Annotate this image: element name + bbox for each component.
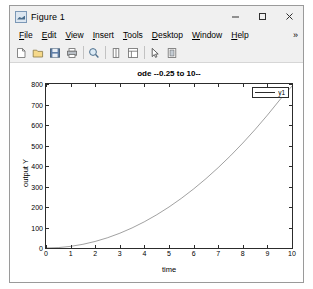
maximize-button[interactable] (249, 6, 276, 27)
menu-item-view[interactable]: View (61, 29, 88, 42)
screenshot-root: Figure 1 File Edit View Insert Tools Des… (0, 0, 313, 289)
figure-window: Figure 1 File Edit View Insert Tools Des… (9, 5, 304, 283)
x-tick-label: 4 (142, 250, 146, 257)
x-tick-label: 10 (288, 250, 296, 257)
save-figure-icon[interactable] (47, 45, 63, 60)
menu-item-desktop[interactable]: Desktop (148, 29, 188, 42)
x-tick-mark (292, 84, 293, 87)
menu-item-file[interactable]: File (15, 29, 38, 42)
y-tick-label: 400 (31, 163, 43, 170)
y-tick-label: 100 (31, 224, 43, 231)
y-tick-label: 300 (31, 183, 43, 190)
matlab-figure-icon (15, 11, 27, 23)
data-cursor-icon[interactable] (108, 45, 124, 60)
close-button[interactable] (276, 6, 303, 27)
menu-item-help[interactable]: Help (227, 29, 253, 42)
x-tick-label: 3 (118, 250, 122, 257)
window-title: Figure 1 (31, 12, 65, 22)
legend-swatch-y1 (255, 92, 275, 93)
x-tick-label: 9 (265, 250, 269, 257)
toolbar-separator (83, 46, 84, 59)
y-axis-label: output Y (21, 159, 30, 187)
open-file-icon[interactable] (30, 45, 46, 60)
new-figure-icon[interactable] (13, 45, 29, 60)
y-tick-label: 0 (39, 245, 43, 252)
toolbar-separator (144, 46, 145, 59)
plot-legend[interactable]: y1 (252, 87, 289, 98)
plot-axes[interactable]: 0100200300400500600700800 012345678910 y… (45, 83, 293, 249)
x-axis-label: time (45, 265, 293, 274)
minimize-button[interactable] (222, 6, 249, 27)
x-tick-label: 6 (192, 250, 196, 257)
figure-canvas[interactable]: ode --0.25 to 10-- output Y time 0100200… (10, 63, 303, 282)
insert-colorbar-icon[interactable] (164, 45, 180, 60)
zoom-in-icon[interactable] (86, 45, 102, 60)
plot-curve-layer (46, 84, 292, 248)
title-bar: Figure 1 (10, 6, 303, 27)
x-tick-mark (292, 245, 293, 248)
y-tick-label: 700 (31, 101, 43, 108)
menu-item-window[interactable]: Window (188, 29, 227, 42)
y-tick-label: 600 (31, 122, 43, 129)
menu-overflow-icon[interactable]: » (293, 30, 298, 40)
y-tick-mark (289, 248, 292, 249)
x-tick-label: 8 (241, 250, 245, 257)
figure-toolbar (10, 43, 303, 63)
chart-title: ode --0.25 to 10-- (45, 69, 293, 78)
legend-label-y1: y1 (278, 89, 285, 96)
x-tick-label: 0 (44, 250, 48, 257)
y-tick-label: 500 (31, 142, 43, 149)
edit-plot-icon[interactable] (147, 45, 163, 60)
x-tick-label: 7 (216, 250, 220, 257)
menu-item-edit[interactable]: Edit (38, 29, 62, 42)
insert-legend-icon[interactable] (125, 45, 141, 60)
x-tick-label: 2 (93, 250, 97, 257)
x-tick-label: 1 (69, 250, 73, 257)
toolbar-separator (105, 46, 106, 59)
y-tick-label: 200 (31, 204, 43, 211)
y-tick-label: 800 (31, 81, 43, 88)
menu-bar: File Edit View Insert Tools Desktop Wind… (10, 27, 303, 43)
x-tick-label: 5 (167, 250, 171, 257)
window-controls (222, 6, 303, 27)
print-figure-icon[interactable] (64, 45, 80, 60)
menu-item-insert[interactable]: Insert (89, 29, 119, 42)
menu-item-tools[interactable]: Tools (119, 29, 148, 42)
series-line-y1 (46, 86, 292, 248)
